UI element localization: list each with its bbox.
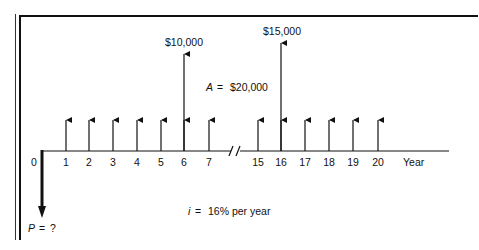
svg-text:$20,000: $20,000: [230, 81, 268, 93]
tick-label: 19: [347, 156, 359, 168]
svg-text:?: ?: [50, 222, 56, 234]
svg-text:P: P: [28, 222, 35, 234]
tick-label: 2: [86, 156, 92, 168]
axis-break-mark: [229, 146, 240, 156]
tick-label: 18: [323, 156, 335, 168]
axis-label: Year: [403, 156, 425, 168]
svg-text:A: A: [205, 81, 213, 93]
svg-text:i: i: [188, 205, 191, 217]
cash-flow-diagram: 1234567151617181920 0 Year $10,000 $15,0…: [0, 0, 479, 250]
svg-text:=: =: [39, 222, 45, 234]
lump-label-year6: $10,000: [165, 36, 203, 48]
tick-label: 5: [158, 156, 164, 168]
svg-text:16% per year: 16% per year: [208, 205, 271, 217]
tick-label: 16: [275, 156, 287, 168]
tick-label: 15: [252, 156, 264, 168]
tick-label: 1: [63, 156, 69, 168]
annual-amount-label: A = $20,000: [205, 81, 268, 93]
interest-rate-label: i = 16% per year: [188, 205, 271, 217]
svg-text:=: =: [195, 205, 201, 217]
origin-label: 0: [31, 156, 37, 168]
tick-label: 20: [372, 156, 384, 168]
lump-label-year16: $15,000: [263, 25, 301, 37]
annual-arrows: [66, 120, 378, 151]
tick-label: 6: [181, 156, 187, 168]
tick-label: 4: [134, 156, 140, 168]
arrowhead-present-value: [38, 206, 46, 218]
tick-label: 7: [206, 156, 212, 168]
svg-text:=: =: [217, 81, 223, 93]
tick-labels: 1234567151617181920: [63, 156, 384, 168]
time-axis: [42, 146, 449, 156]
tick-label: 17: [299, 156, 311, 168]
present-value-label: P = ?: [28, 222, 56, 234]
tick-label: 3: [110, 156, 116, 168]
